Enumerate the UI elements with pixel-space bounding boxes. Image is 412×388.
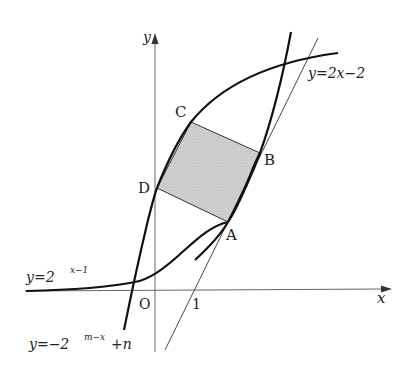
line-equation-label: y=2x−2 — [307, 65, 365, 81]
exp-curve-label: y=2 x−1 — [25, 265, 88, 285]
point-c-label: C — [175, 103, 186, 121]
origin-label: O — [139, 296, 150, 312]
neg-exp-curve-label: y=−2 m−x +n — [28, 332, 132, 352]
neg-exp-label-base: y=−2 — [28, 336, 69, 352]
point-a-label: A — [225, 226, 237, 244]
point-b-label: B — [264, 151, 275, 169]
square-abcd — [157, 122, 260, 222]
math-figure: y x O 1 C B D A y=2x−2 y=2 x−1 y=−2 m−x … — [0, 0, 412, 388]
y-axis-label: y — [142, 29, 152, 45]
neg-exp-label-constant: +n — [111, 336, 132, 352]
point-d-label: D — [138, 179, 150, 197]
tick-label-1: 1 — [192, 296, 201, 312]
exp-curve-label-exponent: x−1 — [70, 265, 88, 275]
exp-curve-label-base: y=2 — [25, 269, 55, 285]
y-axis-arrow-icon — [152, 33, 159, 44]
x-axis-label: x — [377, 289, 386, 307]
neg-exp-label-exponent: m−x — [84, 332, 105, 342]
